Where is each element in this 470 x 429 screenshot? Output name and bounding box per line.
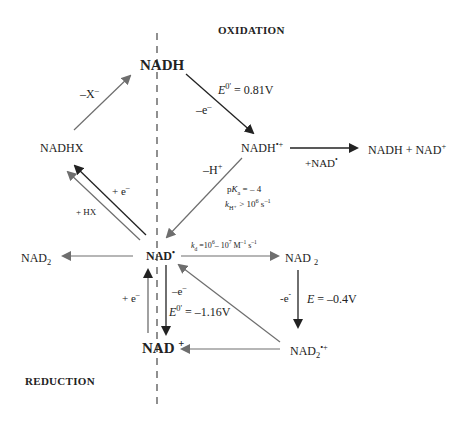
- kh-value: > 10: [237, 199, 256, 209]
- kd-mid: – 10: [215, 241, 229, 250]
- reaction-scheme-arrows: [0, 0, 470, 429]
- species-label: NAD: [21, 251, 47, 265]
- label-minus-e-nad2: -e-: [280, 293, 291, 304]
- label-plus-nad-radical: +NAD•: [305, 158, 338, 169]
- potential-value: = –0.4V: [314, 292, 356, 306]
- annotation-text: –H: [203, 163, 218, 177]
- species-nad2-right: NAD 2: [285, 252, 318, 264]
- subscript-label: 2: [47, 258, 51, 267]
- annotation-text: + e: [122, 292, 136, 304]
- species-nad2-left: NAD2: [21, 252, 51, 264]
- potential-value: = 0.81V: [231, 83, 273, 97]
- species-label: NAD: [146, 249, 172, 263]
- kd-unit-m: M: [231, 241, 240, 250]
- annotation-text: –e: [196, 103, 207, 117]
- charge-label: •: [172, 248, 175, 257]
- arrow-nad2-radical-cation-to-nad-radical: [179, 265, 280, 342]
- species-nad-plus: NAD +: [142, 341, 184, 356]
- species-label: NAD: [290, 344, 316, 358]
- species-label: NADH: [241, 141, 276, 155]
- annotation-sup: -: [289, 290, 292, 299]
- charge-label: •+: [276, 140, 284, 149]
- label-minus-e-top: –e–: [196, 104, 212, 116]
- subscript-label: 2: [316, 351, 320, 360]
- oxidation-heading: OXIDATION: [218, 25, 285, 36]
- annotation-sup: –: [136, 290, 140, 299]
- species-label: NAD: [285, 251, 311, 265]
- charge-label: +: [441, 142, 446, 151]
- charge-label: +: [178, 338, 184, 349]
- annotation-sup: –: [207, 102, 211, 111]
- reduction-heading: REDUCTION: [25, 376, 95, 387]
- annotation-sup: +: [218, 162, 223, 171]
- label-e0-nad: E0' = –1.16V: [169, 306, 230, 318]
- label-plus-e-lower: + e–: [122, 293, 140, 304]
- label-plus-e-upper: + e–: [112, 186, 130, 197]
- kd-value: =10: [197, 241, 212, 250]
- arrow-nad-radical-to-nadhx-plus-e: [75, 166, 146, 235]
- subscript-label: 2: [314, 258, 318, 267]
- label-e0-nadh: E0' = 0.81V: [218, 84, 273, 96]
- kh-unit-exp: –1: [264, 197, 270, 204]
- label-plus-hx: + HX: [76, 208, 96, 217]
- species-nad-radical: NAD•: [146, 250, 175, 262]
- potential-value: = –1.16V: [182, 305, 230, 319]
- label-kd: kd =106– 107 M–1 s–1: [191, 242, 257, 250]
- arrow-nadhx-to-nadh: [74, 76, 130, 130]
- annotation-sup: –: [95, 86, 99, 95]
- annotation-text: +NAD: [305, 157, 335, 169]
- species-label: NAD: [142, 340, 175, 356]
- kh-sub: H⁺: [229, 204, 237, 211]
- species-nadh-radical-cation: NADH•+: [241, 142, 283, 154]
- label-pka: pKa = – 4: [227, 185, 261, 194]
- annotation-sup: –: [182, 283, 186, 292]
- species-label: NADH + NAD: [368, 143, 441, 157]
- charge-label: •+: [320, 343, 328, 352]
- label-minus-h: –H+: [203, 164, 222, 176]
- label-e-nad2: E = –0.4V: [307, 293, 357, 305]
- kd-unit-s-exp: –1: [251, 239, 257, 245]
- species-nad2-radical-cation: NAD2•+: [290, 345, 328, 357]
- species-nadh: NADH: [140, 58, 184, 73]
- label-minus-x: –X–: [80, 88, 99, 100]
- annotation-text: + e: [112, 185, 126, 197]
- annotation-sup: •: [335, 155, 338, 164]
- pka-value: = – 4: [240, 184, 261, 194]
- label-minus-e-lower: –e–: [172, 286, 186, 297]
- annotation-text: –e: [172, 285, 182, 297]
- annotation-sup: –: [126, 183, 130, 192]
- label-kh: kH⁺ > 106 s–1: [225, 200, 271, 209]
- annotation-text: –X: [80, 87, 95, 101]
- species-nadhx: NADHX: [40, 142, 83, 154]
- annotation-text: -e: [280, 292, 289, 304]
- species-products: NADH + NAD+: [368, 144, 446, 156]
- arrow-nad-radical-to-nadhx-plus-hx: [68, 172, 140, 240]
